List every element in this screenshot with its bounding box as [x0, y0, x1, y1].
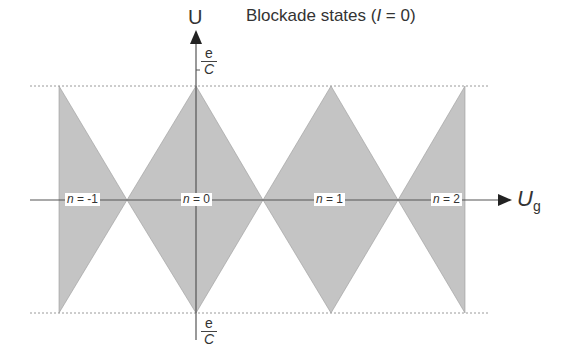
state-label-n-minus-1: n = -1 — [65, 193, 100, 206]
y-axis-label: U — [188, 6, 202, 29]
top-tick-label: e C — [201, 46, 217, 77]
bottom-tick-label: e C — [201, 316, 217, 347]
state-label-n-2: n = 2 — [431, 193, 462, 206]
state-label-n-0: n = 0 — [181, 193, 212, 206]
x-axis-arrow-icon — [498, 194, 512, 206]
coulomb-diamond-diagram — [0, 0, 561, 356]
y-axis-arrow-icon — [190, 30, 202, 44]
state-label-n-1: n = 1 — [314, 193, 345, 206]
x-axis-label: Ug — [517, 186, 541, 214]
diagram-title: Blockade states (I = 0) — [246, 6, 416, 26]
